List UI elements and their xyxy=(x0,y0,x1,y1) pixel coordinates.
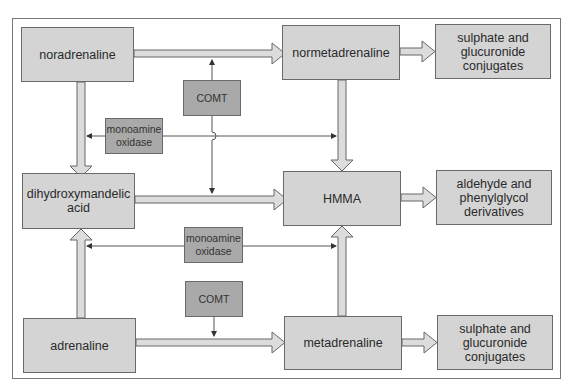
node-metadrenaline: metadrenaline xyxy=(284,316,402,370)
enzyme-label: monoamine oxidase xyxy=(107,123,162,149)
node-label: sulphate and glucuronide conjugates xyxy=(459,322,531,364)
node-label: sulphate and glucuronide conjugates xyxy=(457,31,529,73)
enzyme-label: COMT xyxy=(199,293,230,306)
node-aldehyde-phenylglycol: aldehyde and phenylglycol derivatives xyxy=(436,170,552,225)
comt-top-down-line xyxy=(212,116,216,193)
arrow-metadrenaline-to-conjugates xyxy=(402,332,437,353)
enzyme-mao-top: monoamine oxidase xyxy=(105,118,163,154)
arrow-dihydroxymandelic-to-hmma xyxy=(135,189,287,210)
arrow-normetadrenaline-to-hmma xyxy=(331,80,353,171)
arrow-noradrenaline-to-dihydroxymandelic xyxy=(70,82,92,177)
enzyme-comt-bottom: COMT xyxy=(185,281,243,317)
node-label: adrenaline xyxy=(50,339,108,353)
enzyme-label: monoamine oxidase xyxy=(186,232,241,258)
node-label: HMMA xyxy=(323,192,361,206)
node-adrenaline: adrenaline xyxy=(23,318,136,373)
enzyme-mao-bottom: monoamine oxidase xyxy=(184,227,243,263)
node-label: normetadrenaline xyxy=(292,46,389,60)
node-label: noradrenaline xyxy=(39,48,115,62)
node-label: dihydroxymandelic acid xyxy=(27,187,131,215)
node-label: metadrenaline xyxy=(303,336,382,350)
arrow-noradrenaline-to-normetadrenaline xyxy=(134,43,285,64)
arrow-metadrenaline-to-hmma xyxy=(331,226,353,316)
node-dihydroxymandelic-acid: dihydroxymandelic acid xyxy=(22,173,135,229)
node-conjugates-top: sulphate and glucuronide conjugates xyxy=(435,24,551,79)
arrow-adrenaline-to-metadrenaline xyxy=(136,332,285,353)
enzyme-label: COMT xyxy=(197,92,228,105)
node-hmma: HMMA xyxy=(283,171,401,226)
enzyme-comt-top: COMT xyxy=(183,80,241,116)
arrow-adrenaline-to-dihydroxymandelic xyxy=(70,229,92,318)
node-normetadrenaline: normetadrenaline xyxy=(282,25,400,80)
node-conjugates-bottom: sulphate and glucuronide conjugates xyxy=(437,315,553,370)
arrow-normetadrenaline-to-conjugates xyxy=(400,41,435,62)
node-noradrenaline: noradrenaline xyxy=(21,27,134,82)
arrow-hmma-to-aldehyde xyxy=(401,187,436,208)
node-label: aldehyde and phenylglycol derivatives xyxy=(456,177,531,219)
